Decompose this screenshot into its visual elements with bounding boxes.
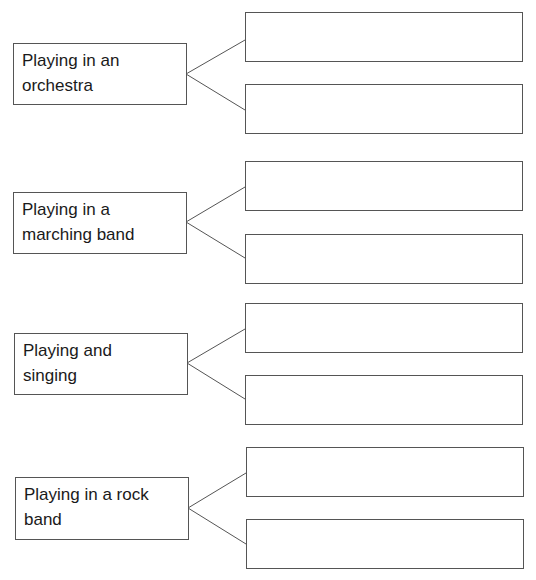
topic-label-line: Playing in a rock: [24, 482, 180, 507]
answer-box-orchestra-2[interactable]: [245, 84, 523, 134]
answer-box-rock-band-1[interactable]: [246, 447, 524, 497]
answer-box-marching-band-2[interactable]: [245, 234, 523, 284]
answer-box-orchestra-1[interactable]: [245, 12, 523, 62]
topic-label-line: orchestra: [22, 73, 178, 98]
topic-label-line: Playing and: [23, 338, 179, 363]
topic-box-orchestra: Playing in an orchestra: [13, 43, 187, 105]
topic-label-line: singing: [23, 363, 179, 388]
topic-label-line: Playing in a: [22, 197, 178, 222]
answer-box-rock-band-2[interactable]: [246, 519, 524, 569]
answer-box-playing-singing-1[interactable]: [245, 303, 523, 353]
topic-label-line: marching band: [22, 222, 178, 247]
topic-label-line: Playing in an: [22, 48, 178, 73]
connector-group-3: [187, 329, 245, 399]
topic-box-playing-singing: Playing and singing: [14, 333, 188, 395]
topic-box-rock-band: Playing in a rock band: [15, 477, 189, 540]
connector-group-2: [186, 187, 245, 258]
connector-group-1: [186, 40, 245, 110]
answer-box-playing-singing-2[interactable]: [245, 375, 523, 425]
connector-group-4: [188, 473, 246, 544]
answer-box-marching-band-1[interactable]: [245, 161, 523, 211]
topic-label-line: band: [24, 507, 180, 532]
topic-box-marching-band: Playing in a marching band: [13, 192, 187, 254]
